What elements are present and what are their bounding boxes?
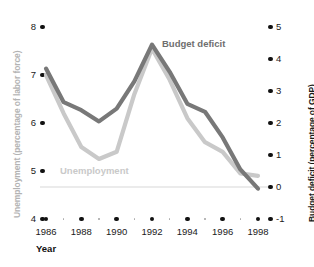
plot-area — [0, 0, 314, 267]
series-line-unemployment — [46, 49, 258, 176]
chart-container: Unemployment (percentage of labor force)… — [0, 0, 314, 267]
series-label-budget-deficit: Budget deficit — [162, 38, 225, 49]
x-axis-title: Year — [36, 243, 56, 254]
series-label-unemployment: Unemployment — [60, 165, 129, 176]
